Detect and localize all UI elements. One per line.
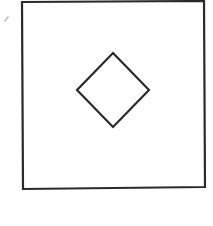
diagram-canvas	[0, 0, 213, 226]
background	[0, 0, 213, 226]
